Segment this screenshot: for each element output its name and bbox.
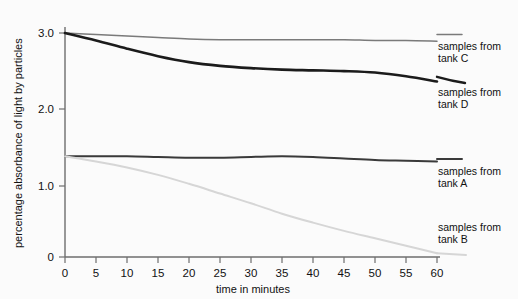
x-tick-label-0: 0 [62, 267, 68, 279]
series-label-tank-b-line2: tank B [438, 233, 468, 245]
y-axis-title: percentage absorbance of light by partic… [12, 38, 24, 248]
leader-line-tank-d [437, 77, 465, 83]
curve-samples-from-tank-b [65, 156, 437, 253]
x-axis-ticks [65, 257, 437, 263]
line-chart: percentage absorbance of light by partic… [0, 0, 518, 299]
chart-container: percentage absorbance of light by partic… [0, 0, 518, 299]
x-tick-label-55: 55 [400, 267, 413, 279]
series-label-tank-a-line2: tank A [438, 177, 467, 189]
curve-samples-from-tank-a [65, 156, 437, 161]
series-label-tank-c-line1: samples from [438, 40, 501, 52]
series-label-tank-a-line1: samples from [438, 165, 501, 177]
x-tick-label-45: 45 [338, 267, 351, 279]
x-tick-label-30: 30 [245, 267, 258, 279]
y-tick-label-3: 3.0 [38, 27, 54, 39]
x-tick-label-20: 20 [183, 267, 196, 279]
x-tick-label-10: 10 [121, 267, 134, 279]
series-label-tank-d-line2: tank D [438, 98, 469, 110]
x-tick-label-5: 5 [93, 267, 99, 279]
y-tick-label-1: 1.0 [38, 180, 54, 192]
y-axis-ticks [59, 33, 65, 257]
x-tick-label-25: 25 [214, 267, 227, 279]
x-axis-title: time in minutes [216, 283, 290, 295]
series-label-tank-b-line1: samples from [438, 221, 501, 233]
y-tick-label-0: 0 [48, 251, 54, 263]
x-tick-label-40: 40 [307, 267, 320, 279]
leader-line-tank-b [437, 253, 466, 255]
curve-samples-from-tank-c [65, 33, 437, 41]
data-curves [65, 33, 437, 253]
series-label-tank-c-line2: tank C [438, 52, 469, 64]
x-tick-label-50: 50 [369, 267, 382, 279]
y-tick-label-2: 2.0 [38, 103, 54, 115]
series-label-tank-d-line1: samples from [438, 86, 501, 98]
x-tick-label-60: 60 [431, 267, 444, 279]
x-tick-label-35: 35 [276, 267, 289, 279]
x-tick-label-15: 15 [152, 267, 165, 279]
